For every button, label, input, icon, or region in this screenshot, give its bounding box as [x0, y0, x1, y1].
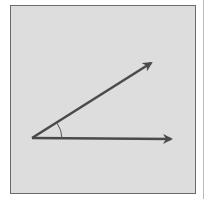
horizontal-ray — [32, 138, 171, 139]
angle-diagram — [0, 0, 209, 199]
angle-arc — [57, 123, 62, 138]
inclined-ray — [32, 63, 151, 138]
